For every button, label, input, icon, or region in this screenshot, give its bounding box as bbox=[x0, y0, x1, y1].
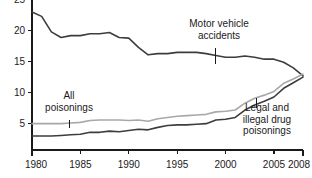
y-axis-ticks: 510152025 bbox=[14, 0, 32, 129]
annotation-line: poisonings bbox=[243, 125, 291, 136]
annotation-line: accidents bbox=[198, 30, 240, 41]
line-chart-figure: 510152025 1980198519901995200020052008 M… bbox=[0, 0, 312, 178]
annotation-label-motor-vehicle-accidents: Motor vehicleaccidents bbox=[189, 18, 249, 41]
y-tick-label: 20 bbox=[14, 25, 26, 36]
x-tick-label: 1995 bbox=[166, 159, 189, 170]
y-axis-group: 510152025 bbox=[14, 0, 32, 150]
x-tick-label: 2005 bbox=[263, 159, 286, 170]
y-tick-label: 10 bbox=[14, 87, 26, 98]
y-tick-label: 5 bbox=[19, 118, 25, 129]
x-tick-label: 1990 bbox=[118, 159, 141, 170]
annotation-legal-illegal-drug-poisonings: Legal andillegal drugpoisonings bbox=[243, 98, 291, 136]
annotation-all-poisonings: Allpoisonings bbox=[45, 90, 93, 128]
x-axis-group: 1980198519901995200020052008 bbox=[25, 150, 311, 170]
y-tick-label: 15 bbox=[14, 56, 26, 67]
annotation-line: illegal drug bbox=[243, 114, 291, 125]
x-axis-ticks: 1980198519901995200020052008 bbox=[25, 150, 311, 170]
annotation-line: Motor vehicle bbox=[189, 18, 249, 29]
annotation-line: All bbox=[63, 90, 74, 101]
x-tick-label: 1980 bbox=[25, 159, 48, 170]
x-tick-label: 1985 bbox=[69, 159, 92, 170]
x-tick-label: 2000 bbox=[214, 159, 237, 170]
annotation-line: poisonings bbox=[45, 102, 93, 113]
annotation-label-all-poisonings: Allpoisonings bbox=[45, 90, 93, 113]
y-tick-label: 25 bbox=[14, 0, 26, 5]
annotation-label-legal-illegal-drug-poisonings: Legal andillegal drugpoisonings bbox=[243, 102, 291, 136]
annotation-line: Legal and bbox=[245, 102, 289, 113]
chart-canvas: 510152025 1980198519901995200020052008 M… bbox=[0, 0, 312, 178]
series-line-motor-vehicle-accidents bbox=[32, 12, 303, 76]
x-tick-label: 2008 bbox=[288, 159, 311, 170]
